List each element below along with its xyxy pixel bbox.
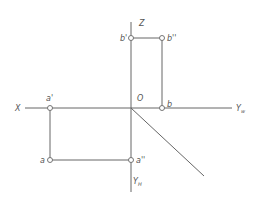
axis-label-origin: O [137,94,143,103]
diagonal-45-line [131,108,204,176]
diagram-svg: X Z O Yw YH a' a a'' b' b'' b [0,0,261,202]
projection-diagram: X Z O Yw YH a' a a'' b' b'' b [0,0,261,202]
point-a [48,158,53,163]
point-b-dprime [160,36,165,41]
label-b-prime: b' [120,34,127,43]
axis-label-x: X [14,104,21,113]
label-a-prime: a' [46,94,53,103]
axis-label-yh: YH [133,177,142,187]
label-b-dprime: b'' [167,34,176,43]
label-a: a [40,156,45,165]
point-b [160,106,165,111]
axis-label-yw: Yw [236,104,246,114]
point-b-prime [129,36,134,41]
point-a-dprime [129,158,134,163]
label-b: b [167,100,172,109]
point-a-prime [48,106,53,111]
axis-label-z: Z [138,19,145,28]
label-a-dprime: a'' [136,156,145,165]
